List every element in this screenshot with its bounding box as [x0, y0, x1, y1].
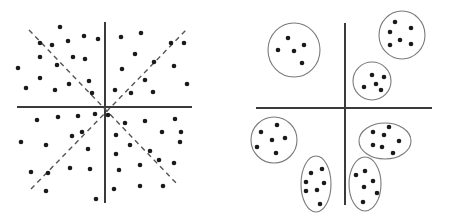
- data-point: [114, 133, 119, 138]
- left-panel-uniform-scatter: [16, 22, 192, 203]
- cluster-boundary-ellipse: [379, 11, 425, 59]
- data-point: [371, 130, 376, 135]
- data-point: [38, 41, 43, 46]
- data-point: [179, 130, 184, 135]
- data-point: [38, 55, 43, 60]
- data-point: [172, 161, 177, 166]
- data-point: [300, 61, 305, 66]
- data-point: [58, 25, 63, 30]
- data-point: [38, 76, 43, 81]
- data-point: [53, 88, 58, 93]
- data-point: [96, 37, 101, 42]
- data-point: [354, 173, 359, 178]
- data-point: [182, 41, 187, 46]
- data-point: [68, 166, 73, 171]
- data-point: [286, 36, 291, 41]
- data-point: [374, 82, 379, 87]
- data-point: [19, 140, 24, 145]
- data-point: [304, 189, 309, 194]
- data-point: [76, 114, 81, 119]
- data-point: [117, 168, 122, 173]
- data-point: [315, 188, 320, 193]
- data-point: [382, 75, 387, 80]
- data-point: [363, 169, 368, 174]
- data-point: [138, 184, 143, 189]
- cluster-boundary-ellipse: [359, 123, 411, 159]
- data-point: [161, 184, 166, 189]
- data-point: [379, 88, 384, 93]
- data-point: [274, 151, 279, 156]
- data-point: [16, 66, 21, 71]
- data-point: [318, 202, 323, 207]
- data-point: [90, 91, 95, 96]
- data-point: [387, 125, 392, 130]
- data-point: [370, 73, 375, 78]
- data-point: [361, 200, 366, 205]
- data-point: [82, 34, 87, 39]
- data-point: [185, 82, 190, 87]
- data-point: [66, 39, 71, 44]
- data-point: [80, 130, 85, 135]
- data-point: [86, 147, 91, 152]
- data-point: [87, 79, 92, 84]
- data-point: [29, 170, 34, 175]
- cluster-bottom-center: [301, 156, 331, 212]
- data-point: [397, 139, 402, 144]
- data-point: [46, 171, 51, 176]
- data-point: [113, 88, 118, 93]
- data-point: [88, 167, 93, 172]
- data-point: [93, 112, 98, 117]
- data-point: [320, 167, 325, 172]
- data-point: [55, 63, 60, 68]
- data-point: [309, 171, 314, 176]
- data-point: [409, 26, 414, 31]
- data-point: [382, 133, 387, 138]
- data-point: [106, 113, 111, 118]
- data-point: [83, 57, 88, 62]
- data-point: [371, 143, 376, 148]
- diagram-canvas: [0, 0, 449, 223]
- data-point: [24, 86, 29, 91]
- data-point: [56, 115, 61, 120]
- data-point: [393, 20, 398, 25]
- data-point: [283, 136, 288, 141]
- cluster-upper-right: [379, 11, 425, 59]
- data-point: [169, 41, 174, 46]
- data-point: [172, 64, 177, 69]
- data-point: [270, 138, 275, 143]
- data-point: [35, 118, 40, 123]
- data-point: [302, 43, 307, 48]
- data-point: [71, 55, 76, 60]
- data-point: [112, 187, 117, 192]
- data-point: [114, 152, 119, 157]
- data-point: [123, 121, 128, 126]
- data-point: [409, 42, 414, 47]
- data-point: [388, 30, 393, 35]
- data-point: [255, 145, 260, 150]
- data-point: [129, 91, 134, 96]
- data-point: [133, 52, 138, 57]
- cluster-center-right: [353, 62, 391, 100]
- data-point: [304, 180, 309, 185]
- data-point: [276, 48, 281, 53]
- data-point: [143, 119, 148, 124]
- cluster-lower-right: [359, 123, 411, 159]
- dashed-diagonal-line: [31, 29, 187, 189]
- cluster-lower-left: [251, 117, 297, 163]
- data-point: [375, 191, 380, 196]
- data-point: [380, 145, 385, 150]
- data-point: [173, 117, 178, 122]
- data-point: [128, 143, 133, 148]
- data-point: [44, 189, 49, 194]
- data-point: [391, 151, 396, 156]
- cluster-bottom-right: [349, 157, 381, 211]
- data-point: [139, 31, 144, 36]
- data-point: [119, 35, 124, 40]
- data-point: [44, 143, 49, 148]
- data-point: [152, 60, 157, 65]
- cluster-boundary-ellipse: [353, 62, 391, 100]
- right-panel-clustered-scatter: [251, 11, 432, 212]
- data-point: [120, 67, 125, 72]
- data-point: [371, 179, 376, 184]
- data-point: [388, 43, 393, 48]
